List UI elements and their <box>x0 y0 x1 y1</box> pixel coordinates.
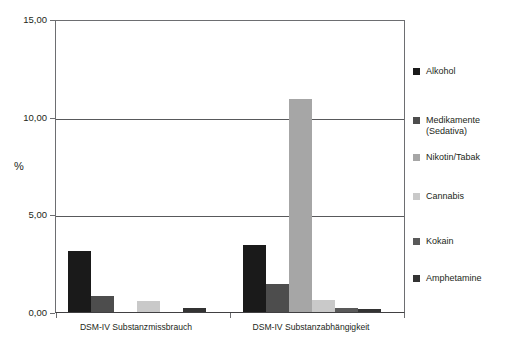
y-tick-label: 15,00 <box>23 15 47 25</box>
x-tick-mark <box>404 313 405 318</box>
bar <box>266 284 289 312</box>
y-tick-mark <box>50 20 55 21</box>
legend-label: Alkohol <box>426 66 456 77</box>
bar <box>68 251 91 312</box>
bar-chart: 15,0010,005,000,00 % DSM-IV Substanzmiss… <box>0 0 509 349</box>
legend-label: Cannabis <box>426 191 464 202</box>
legend-label: Kokain <box>426 236 454 247</box>
bar <box>137 301 160 312</box>
gridline <box>56 119 404 120</box>
bar <box>312 300 335 312</box>
bar <box>335 308 358 312</box>
y-axis-title: % <box>14 160 24 172</box>
x-axis-label: DSM-IV Substanzabhängigkeit <box>221 322 401 332</box>
gridline <box>56 216 404 217</box>
legend-item[interactable]: Kokain <box>413 236 509 247</box>
legend-swatch-icon <box>413 275 420 282</box>
legend-swatch-icon <box>413 117 420 124</box>
bar <box>358 309 381 312</box>
x-axis-label: DSM-IV Substanzmissbrauch <box>46 322 226 332</box>
legend-item[interactable]: Medikamente (Sedativa) <box>413 115 509 137</box>
y-tick-mark <box>50 118 55 119</box>
legend-swatch-icon <box>413 154 420 161</box>
legend-item[interactable]: Nikotin/Tabak <box>413 152 509 163</box>
legend-swatch-icon <box>413 193 420 200</box>
bar <box>289 99 312 312</box>
legend-item[interactable]: Cannabis <box>413 191 509 202</box>
y-tick-mark <box>50 215 55 216</box>
legend-swatch-icon <box>413 238 420 245</box>
legend-label: Amphetamine <box>426 273 482 284</box>
y-tick-label: 5,00 <box>29 210 48 220</box>
plot-area <box>55 20 405 313</box>
x-tick-mark <box>230 313 231 318</box>
y-tick-label: 0,00 <box>29 308 48 318</box>
legend-label: Medikamente (Sedativa) <box>426 115 480 137</box>
legend-item[interactable]: Amphetamine <box>413 273 509 284</box>
legend-label: Nikotin/Tabak <box>426 152 480 163</box>
bar <box>183 308 206 312</box>
bar <box>91 296 114 312</box>
legend-swatch-icon <box>413 68 420 75</box>
y-axis: 15,0010,005,000,00 <box>0 0 47 349</box>
x-tick-mark <box>56 313 57 318</box>
y-tick-mark <box>50 313 55 314</box>
legend-item[interactable]: Alkohol <box>413 66 509 77</box>
y-tick-label: 10,00 <box>23 113 47 123</box>
bar <box>243 245 266 312</box>
